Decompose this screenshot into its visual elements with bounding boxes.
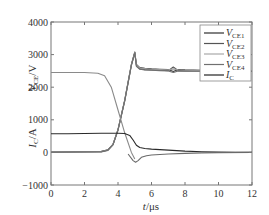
x-tick-label: 2 [82, 188, 87, 199]
y-tick-label: 1000 [28, 114, 48, 125]
y-tick-label: 4000 [28, 17, 48, 28]
y-axis-label-current: IC/A [26, 128, 40, 148]
x-tick-label: 6 [149, 188, 154, 199]
x-tick-label: 12 [247, 188, 257, 199]
y-tick-label: 3000 [28, 49, 48, 60]
legend: VCE1VCE2VCE3VCE4IC [200, 25, 251, 82]
x-tick-label: 0 [49, 188, 54, 199]
y-axis-label-voltage: VCE/V [26, 65, 40, 92]
x-axis-label: t/μs [143, 200, 159, 212]
y-tick-label: −1000 [22, 180, 48, 191]
series-i-c [51, 133, 252, 152]
series-i-c-undershoot [128, 152, 252, 162]
chart: −100001000200030004000 024681012 VCE/V I… [0, 0, 269, 215]
y-tick-label: 0 [43, 147, 48, 158]
x-tick-label: 10 [214, 188, 224, 199]
x-tick-label: 4 [116, 188, 121, 199]
series-v-ce-precond-high [51, 73, 135, 159]
x-tick-label: 8 [183, 188, 188, 199]
